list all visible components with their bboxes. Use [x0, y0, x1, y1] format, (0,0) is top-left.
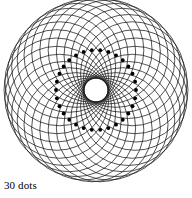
circle-center-dot — [74, 53, 78, 57]
circle-center-dot — [134, 88, 138, 92]
circle-center-dot — [126, 65, 130, 69]
circle-center-dot — [55, 80, 59, 84]
circle-envelope-diagram — [0, 0, 192, 198]
circle-center-dot — [62, 65, 66, 69]
circle-center-dot — [131, 104, 135, 108]
circle-center-dot — [54, 88, 58, 92]
circle-center-dot — [90, 128, 94, 132]
circle-center-dot — [90, 48, 94, 52]
circle-center-dot — [58, 72, 62, 76]
circle-center-dot — [121, 118, 125, 122]
circle-center-dot — [114, 123, 118, 127]
circle-center-dot — [74, 123, 78, 127]
circle-center-dot — [133, 96, 137, 100]
circle-center-dot — [67, 118, 71, 122]
figure-caption: 30 dots — [4, 179, 37, 192]
circle-center-dot — [126, 112, 130, 116]
circle-center-dot — [82, 126, 86, 130]
figure-container: 30 dots — [0, 0, 192, 198]
circle-center-dot — [131, 72, 135, 76]
circle-center-dot — [98, 128, 102, 132]
circle-center-dot — [62, 112, 66, 116]
circle-center-dot — [106, 126, 110, 130]
circle-center-dot — [67, 58, 71, 62]
circle-center-dot — [58, 104, 62, 108]
circle-center-dot — [106, 50, 110, 54]
circle-center-dot — [55, 96, 59, 100]
circle-center-dot — [133, 80, 137, 84]
circle-center-dot — [82, 50, 86, 54]
circle-center-dot — [114, 53, 118, 57]
canvas-background — [0, 0, 192, 198]
circle-center-dot — [98, 48, 102, 52]
circle-center-dot — [121, 58, 125, 62]
